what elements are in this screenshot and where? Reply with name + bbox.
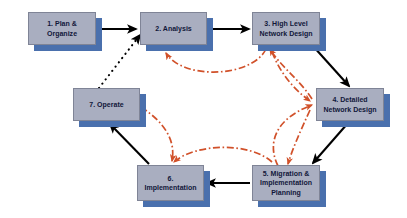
- node-label: 7. Operate: [87, 100, 125, 109]
- node-label: 2. Analysis: [153, 24, 194, 33]
- node-label: 5. Migration & Implementation Planning: [258, 169, 314, 197]
- node-operate[interactable]: 7. Operate: [73, 88, 140, 121]
- feedback-edge-group: [141, 49, 312, 166]
- node-high-level-network-design[interactable]: 3. High Level Network Design: [252, 12, 320, 45]
- feedback-migration-to-implementation: [174, 147, 272, 162]
- edge-operate-to-analysis: [99, 35, 140, 88]
- edge-detailed-design-to-migration: [313, 123, 348, 163]
- node-plan-organize[interactable]: 1. Plan & Organize: [28, 12, 96, 45]
- edge-high-level-to-detailed-design: [313, 46, 349, 86]
- node-face: 1. Plan & Organize: [28, 12, 96, 45]
- node-face: 4. Detailed Network Design: [316, 88, 384, 121]
- node-migration-implementation-planning[interactable]: 5. Migration & Implementation Planning: [252, 165, 320, 201]
- node-analysis[interactable]: 2. Analysis: [140, 12, 207, 45]
- node-face: 3. High Level Network Design: [252, 12, 320, 45]
- edge-implementation-to-operate: [110, 124, 149, 164]
- node-face: 6. Implementation: [137, 165, 204, 201]
- node-label: 3. High Level Network Design: [257, 19, 314, 37]
- node-face: 5. Migration & Implementation Planning: [252, 165, 320, 201]
- node-face: 7. Operate: [73, 88, 140, 121]
- diagram-canvas: 1. Plan & Organize 2. Analysis 3. High L…: [0, 0, 407, 218]
- node-implementation[interactable]: 6. Implementation: [137, 165, 204, 201]
- dotted-edge-group: [99, 35, 140, 88]
- node-detailed-network-design[interactable]: 4. Detailed Network Design: [316, 88, 384, 121]
- feedback-migration-to-detailed: [273, 105, 312, 166]
- feedback-detailed-to-high-level: [270, 49, 312, 99]
- node-face: 2. Analysis: [140, 12, 207, 45]
- node-label: 1. Plan & Organize: [45, 19, 79, 37]
- feedback-high-level-to-detailed: [272, 52, 310, 101]
- node-label: 4. Detailed Network Design: [321, 95, 378, 113]
- feedback-high-level-to-analysis: [166, 49, 266, 72]
- feedback-detailed-to-migration: [288, 110, 310, 164]
- node-label: 6. Implementation: [142, 174, 198, 192]
